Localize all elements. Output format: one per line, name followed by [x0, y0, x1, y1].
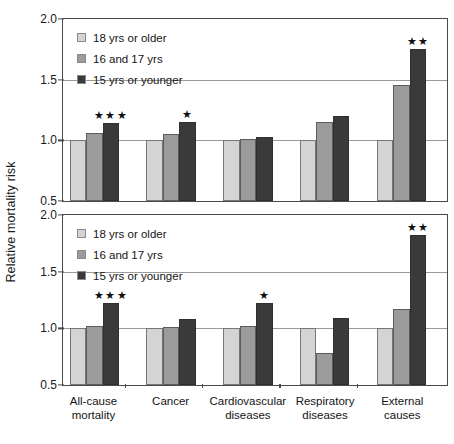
bar — [256, 137, 273, 201]
legend-swatch-icon — [77, 271, 86, 280]
bar — [410, 49, 427, 201]
x-axis-tick-mark — [357, 384, 358, 388]
significance-marker: ★ — [259, 290, 271, 301]
bar — [410, 235, 427, 385]
bar — [163, 327, 180, 385]
bar-group — [377, 215, 441, 385]
y-axis-tick-label: 0.5 — [40, 378, 57, 392]
bar — [240, 326, 257, 385]
x-axis-tick-mark — [202, 384, 203, 388]
legend-swatch-icon — [77, 33, 86, 42]
legend-swatch-icon — [77, 229, 86, 238]
legend-item-label: 16 and 17 yrs — [93, 249, 163, 261]
significance-marker: ★ — [182, 109, 194, 120]
bar-group — [223, 215, 287, 385]
y-axis-tick-label: 1.5 — [40, 73, 57, 87]
chart-panel-top: 0.51.01.52.0★★★★★★18 yrs or older16 and … — [62, 18, 448, 202]
x-axis-category-label: Cardiovasculardiseases — [209, 394, 286, 422]
bar — [223, 140, 240, 201]
x-axis-category-label: Externalcauses — [381, 394, 423, 422]
legend-item: 18 yrs or older — [77, 223, 183, 244]
x-axis-tick-mark — [125, 384, 126, 388]
x-axis-category-label: Respiratorydiseases — [296, 394, 355, 422]
x-axis-category-labels: All-causemortalityCancerCardiovasculardi… — [62, 388, 448, 434]
y-axis-tick-label: 1.0 — [40, 321, 57, 335]
legend-item-label: 15 yrs or younger — [93, 270, 183, 282]
legend: 18 yrs or older16 and 17 yrs15 yrs or yo… — [77, 27, 183, 90]
y-axis-tick-label: 1.5 — [40, 265, 57, 279]
bar — [163, 134, 180, 201]
legend-item: 15 yrs or younger — [77, 69, 183, 90]
bar — [377, 140, 394, 201]
mortality-risk-figure: Relative mortality risk 0.51.01.52.0★★★★… — [0, 0, 454, 444]
significance-marker: ★★ — [407, 222, 430, 233]
legend-item-label: 18 yrs or older — [93, 228, 167, 240]
y-axis-tick-mark — [58, 140, 64, 141]
bar — [86, 133, 103, 201]
y-axis-tick-mark — [58, 328, 64, 329]
bar — [146, 328, 163, 385]
legend-item: 16 and 17 yrs — [77, 244, 183, 265]
bar-group — [300, 19, 364, 201]
legend-swatch-icon — [77, 54, 86, 63]
bar — [256, 303, 273, 385]
y-axis-tick-mark — [58, 200, 64, 201]
bar — [103, 123, 120, 201]
bar — [103, 303, 120, 385]
legend-item: 15 yrs or younger — [77, 265, 183, 286]
y-axis-tick-mark — [58, 384, 64, 385]
bar — [70, 328, 87, 385]
bar — [179, 122, 196, 201]
legend: 18 yrs or older16 and 17 yrs15 yrs or yo… — [77, 223, 183, 286]
legend-item-label: 16 and 17 yrs — [93, 53, 163, 65]
x-axis-tick-mark — [279, 384, 280, 388]
y-axis-tick-mark — [58, 18, 64, 19]
y-axis-title-text: Relative mortality risk — [4, 161, 18, 282]
y-axis-tick-mark — [58, 79, 64, 80]
legend-swatch-icon — [77, 250, 86, 259]
bar — [316, 122, 333, 201]
bar — [86, 326, 103, 385]
legend-item-label: 18 yrs or older — [93, 32, 167, 44]
significance-marker: ★★★ — [94, 290, 129, 301]
bar — [70, 140, 87, 201]
bar — [377, 328, 394, 385]
legend-item: 16 and 17 yrs — [77, 48, 183, 69]
y-axis-tick-label: 2.0 — [40, 12, 57, 26]
y-axis-tick-mark — [58, 271, 64, 272]
y-axis-tick-label: 1.0 — [40, 133, 57, 147]
bar — [333, 318, 350, 385]
bar — [316, 353, 333, 385]
y-axis-tick-label: 0.5 — [40, 194, 57, 208]
legend-item-label: 15 yrs or younger — [93, 74, 183, 86]
bar — [223, 328, 240, 385]
bar — [333, 116, 350, 201]
y-axis-tick-label: 2.0 — [40, 208, 57, 222]
bar-group — [300, 215, 364, 385]
chart-panel-bottom: 0.51.01.52.0★★★★★★18 yrs or older16 and … — [62, 214, 448, 386]
legend-swatch-icon — [77, 75, 86, 84]
bar — [300, 140, 317, 201]
bar — [146, 140, 163, 201]
bar-group — [223, 19, 287, 201]
y-axis-title: Relative mortality risk — [0, 0, 22, 444]
significance-marker: ★★ — [407, 36, 430, 47]
plot-frame-top: 0.51.01.52.0★★★★★★18 yrs or older16 and … — [62, 18, 448, 202]
bar — [300, 328, 317, 385]
bar — [393, 85, 410, 201]
bar — [240, 139, 257, 201]
y-axis-tick-mark — [58, 214, 64, 215]
x-axis-category-label: Cancer — [152, 394, 189, 408]
legend-item: 18 yrs or older — [77, 27, 183, 48]
x-axis-category-label: All-causemortality — [70, 394, 117, 422]
bar — [393, 309, 410, 385]
significance-marker: ★★★ — [94, 110, 129, 121]
bar — [179, 319, 196, 385]
plot-frame-bottom: 0.51.01.52.0★★★★★★18 yrs or older16 and … — [62, 214, 448, 386]
